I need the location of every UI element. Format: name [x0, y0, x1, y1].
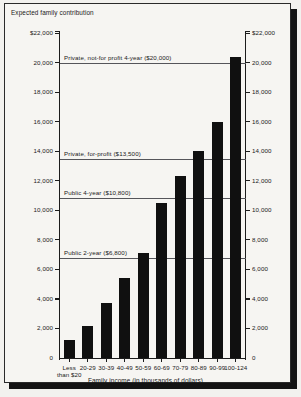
- x-tick: [124, 359, 125, 362]
- y-tick-label-left: 0: [9, 354, 53, 361]
- y-tick-right: [246, 92, 250, 93]
- y-tick-label-left: $22,000: [9, 29, 53, 36]
- y-tick-label-left: 18,000: [9, 88, 53, 95]
- y-tick-left: [55, 92, 59, 93]
- y-tick-left: [55, 180, 59, 181]
- y-tick-label-right: 4,000: [252, 295, 296, 302]
- x-tick-label: 100-124: [214, 364, 258, 371]
- y-tick-left: [55, 328, 59, 329]
- y-tick-label-right: $22,000: [252, 29, 296, 36]
- x-axis-title: Family income (in thousands of dollars): [0, 377, 291, 384]
- x-tick: [235, 359, 236, 362]
- x-tick: [198, 359, 199, 362]
- y-tick-label-right: 8,000: [252, 236, 296, 243]
- bar: [212, 122, 223, 358]
- y-tick-label-right: 6,000: [252, 265, 296, 272]
- y-tick-label-right: 14,000: [252, 147, 296, 154]
- x-tick: [161, 359, 162, 362]
- y-tick-right: [246, 328, 250, 329]
- x-tick: [180, 359, 181, 362]
- y-tick-label-left: 12,000: [9, 177, 53, 184]
- y-tick-right: [246, 121, 250, 122]
- y-tick-label-right: 0: [252, 354, 296, 361]
- y-tick-label-right: 10,000: [252, 206, 296, 213]
- y-tick-label-left: 14,000: [9, 147, 53, 154]
- x-tick: [87, 359, 88, 362]
- bar: [230, 57, 241, 358]
- y-tick-label-left: 20,000: [9, 59, 53, 66]
- y-tick-left: [55, 269, 59, 270]
- y-tick-label-left: 16,000: [9, 118, 53, 125]
- y-tick-right: [246, 180, 250, 181]
- y-tick-label-right: 20,000: [252, 59, 296, 66]
- bar: [193, 151, 204, 358]
- y-tick-right: [246, 239, 250, 240]
- x-tick: [143, 359, 144, 362]
- y-tick-right: [246, 151, 250, 152]
- y-tick-right: [246, 62, 250, 63]
- x-tick: [69, 359, 70, 362]
- y-tick-right: [246, 210, 250, 211]
- bar: [101, 303, 112, 358]
- y-tick-label-left: 8,000: [9, 236, 53, 243]
- bar: [156, 203, 167, 358]
- y-tick-label-left: 2,000: [9, 324, 53, 331]
- y-tick-right: [246, 269, 250, 270]
- y-tick-label-right: 12,000: [252, 177, 296, 184]
- y-tick-left: [55, 121, 59, 122]
- y-tick-label-right: 2,000: [252, 324, 296, 331]
- y-tick-right: [246, 298, 250, 299]
- y-tick-label-right: 16,000: [252, 118, 296, 125]
- y-tick-left: [55, 298, 59, 299]
- y-tick-left: [55, 62, 59, 63]
- y-tick-left: [55, 33, 59, 34]
- y-tick-left: [55, 210, 59, 211]
- chart-figure: Expected family contribution $22,00020,0…: [0, 0, 301, 397]
- y-tick-left: [55, 151, 59, 152]
- bar: [82, 326, 93, 359]
- bar: [119, 278, 130, 358]
- y-tick-label-right: 18,000: [252, 88, 296, 95]
- y-tick-label-left: 4,000: [9, 295, 53, 302]
- bar: [175, 176, 186, 358]
- y-tick-label-left: 6,000: [9, 265, 53, 272]
- y-tick-left: [55, 239, 59, 240]
- bar: [64, 340, 75, 358]
- bar-series: [60, 33, 246, 358]
- y-tick-label-left: 10,000: [9, 206, 53, 213]
- x-tick: [106, 359, 107, 362]
- y-tick-right: [246, 33, 250, 34]
- x-tick: [217, 359, 218, 362]
- bar: [138, 253, 149, 358]
- y-axis-title: Expected family contribution: [11, 9, 121, 17]
